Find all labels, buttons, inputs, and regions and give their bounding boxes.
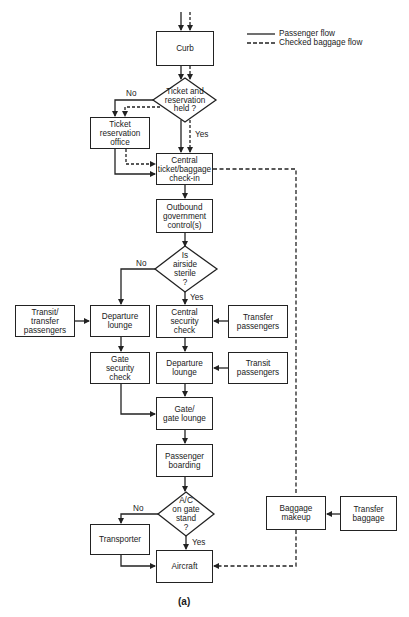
- edge-label-airside-no: No: [136, 259, 146, 268]
- node-transit-transfer-passengers: Transit/ transfer passengers: [15, 305, 75, 337]
- figure-caption: (a): [178, 596, 190, 607]
- edge-label-airside-yes: Yes: [190, 293, 203, 302]
- legend-passenger-flow: Passenger flow: [279, 29, 335, 38]
- decision-ticket-held: Ticket and reservation held ?: [155, 84, 215, 118]
- edge-label-ticket-no: No: [126, 89, 136, 98]
- decision-ac-on-gate-stand: A/C on gate stand ?: [163, 495, 209, 535]
- node-ticket-reservation-office: Ticket reservation office: [90, 117, 150, 149]
- node-baggage-makeup: Baggage makeup: [266, 496, 326, 530]
- node-gate-security-check: Gate security check: [90, 352, 150, 384]
- node-transfer-passengers: Transfer passengers: [228, 305, 288, 338]
- node-transporter: Transporter: [90, 524, 150, 555]
- edge-label-ac-yes: Yes: [192, 538, 205, 547]
- node-central-security-check: Central security check: [156, 305, 213, 338]
- node-transit-passengers: Transit passengers: [228, 352, 288, 384]
- node-curb: Curb: [156, 31, 214, 66]
- node-transfer-baggage: Transfer baggage: [340, 496, 397, 531]
- node-central-checkin: Central ticket/baggage check-in: [156, 153, 213, 185]
- edge-label-ac-no: No: [133, 504, 143, 513]
- decision-airside-sterile: Is airside sterile ?: [160, 250, 210, 290]
- node-aircraft: Aircraft: [156, 550, 213, 583]
- node-departure-lounge-left: Departure lounge: [90, 305, 150, 337]
- node-gate-lounge: Gate/ gate lounge: [156, 397, 213, 430]
- edge-label-ticket-yes: Yes: [195, 130, 208, 139]
- node-passenger-boarding: Passenger boarding: [156, 444, 213, 477]
- node-departure-lounge-right: Departure lounge: [156, 352, 213, 384]
- legend-checked-baggage-flow: Checked baggage flow: [279, 38, 362, 47]
- node-outbound-government-control: Outbound government control(s): [156, 199, 213, 233]
